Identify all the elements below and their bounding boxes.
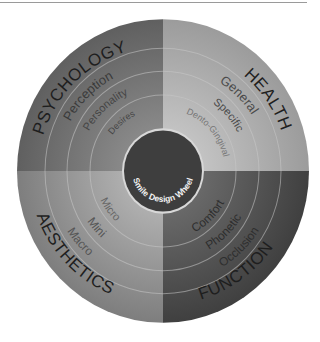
smile-design-wheel: PSYCHOLOGY Perception Personality Desire… <box>0 0 320 342</box>
